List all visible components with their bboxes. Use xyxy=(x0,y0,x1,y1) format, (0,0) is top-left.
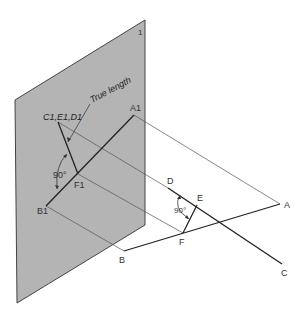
label-b1: B1 xyxy=(37,206,48,216)
label-b: B xyxy=(119,255,125,265)
plane-number-label: 1 xyxy=(138,28,143,37)
diagram-canvas: 1 C1,E1,D1 True length A1 B1 F1 90° 90° … xyxy=(0,0,308,317)
label-a: A xyxy=(284,200,290,210)
label-e: E xyxy=(197,193,203,203)
label-d: D xyxy=(167,176,174,186)
label-f1: F1 xyxy=(74,180,85,190)
label-angle-space: 90° xyxy=(174,206,186,215)
label-a1: A1 xyxy=(130,103,141,113)
projection-plane xyxy=(15,20,145,303)
orthographic-projection-diagram: 1 C1,E1,D1 True length A1 B1 F1 90° 90° … xyxy=(0,0,308,317)
line-d-c xyxy=(168,188,282,264)
label-angle-plane: 90° xyxy=(53,170,67,180)
label-f: F xyxy=(179,237,185,247)
label-c1-e1-d1: C1,E1,D1 xyxy=(43,112,82,122)
projector-a1-a xyxy=(134,115,280,204)
label-c: C xyxy=(281,268,288,278)
